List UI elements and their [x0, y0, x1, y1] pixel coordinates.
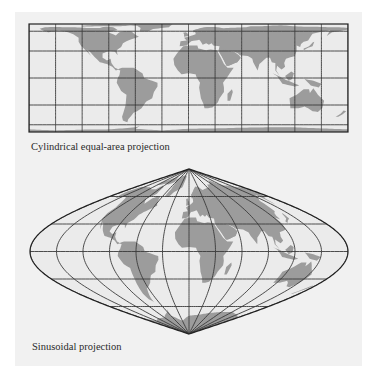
sinusoidal-graticule: [30, 169, 348, 334]
sinusoidal-caption: Sinusoidal projection: [32, 341, 122, 352]
cylindrical-caption: Cylindrical equal-area projection: [31, 141, 170, 152]
cylindrical-equal-area-map: [29, 24, 348, 132]
maps-canvas: [0, 0, 376, 380]
sinusoidal-map: [30, 169, 348, 334]
